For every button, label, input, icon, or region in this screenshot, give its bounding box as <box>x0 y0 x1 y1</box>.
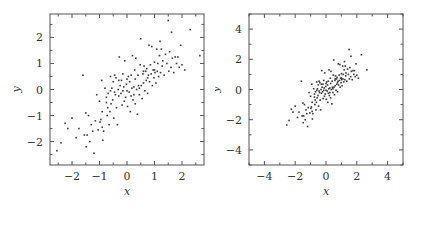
data-point <box>123 86 125 88</box>
data-point <box>354 70 356 72</box>
data-point <box>78 128 80 130</box>
data-point <box>169 51 171 53</box>
data-point <box>332 88 334 90</box>
data-point <box>123 100 125 102</box>
data-point <box>307 107 309 109</box>
x-tick-label: 2 <box>179 170 186 183</box>
data-point <box>88 115 90 117</box>
data-point <box>102 139 104 141</box>
data-point <box>342 78 344 80</box>
y-tick-label: 2 <box>36 31 43 44</box>
data-point <box>344 61 346 63</box>
data-point <box>315 109 317 111</box>
x-tick-label: 2 <box>353 170 360 183</box>
data-point <box>176 63 178 65</box>
data-point <box>115 94 117 96</box>
data-point <box>325 86 327 88</box>
data-point <box>311 111 313 113</box>
data-point <box>311 102 313 104</box>
data-point <box>310 95 312 97</box>
data-point <box>130 74 132 76</box>
y-tick-label: 1 <box>36 57 43 70</box>
data-point <box>111 87 113 89</box>
data-point <box>128 91 130 93</box>
data-point <box>305 109 307 111</box>
data-point <box>311 106 313 108</box>
data-point <box>327 84 329 86</box>
x-axis-label: x <box>323 185 330 198</box>
data-point <box>319 99 321 101</box>
data-point <box>99 121 101 123</box>
data-point <box>344 65 346 67</box>
data-point <box>338 63 340 65</box>
data-point <box>103 130 105 132</box>
data-point <box>318 80 320 82</box>
data-point <box>339 64 341 66</box>
data-point <box>148 74 150 76</box>
y-tick-label: −2 <box>27 136 43 149</box>
data-point <box>109 111 111 113</box>
data-point <box>114 91 116 93</box>
data-point <box>110 90 112 92</box>
y-tick-label: 0 <box>36 84 43 97</box>
data-point <box>306 113 308 115</box>
data-point <box>108 124 110 126</box>
data-point <box>332 86 334 88</box>
data-point <box>165 54 167 56</box>
y-axis-label: y <box>215 86 222 94</box>
data-point <box>335 75 337 77</box>
data-point <box>141 98 143 100</box>
data-point <box>161 65 163 67</box>
data-point <box>101 80 103 82</box>
data-point <box>159 55 161 57</box>
data-point <box>128 76 130 78</box>
data-point <box>92 130 94 132</box>
y-tick-label: −2 <box>226 114 242 127</box>
data-point <box>124 60 126 62</box>
data-point <box>154 72 156 74</box>
data-point <box>86 146 88 148</box>
data-point <box>361 54 363 56</box>
data-point <box>156 48 158 50</box>
data-point <box>331 80 333 82</box>
data-point <box>174 56 176 58</box>
data-point <box>316 97 318 99</box>
data-point <box>85 112 87 114</box>
data-point <box>104 87 106 89</box>
data-point <box>184 69 186 71</box>
data-point <box>350 55 352 57</box>
data-point <box>154 69 156 71</box>
data-point <box>353 74 355 76</box>
data-point <box>288 120 290 122</box>
data-point <box>180 44 182 46</box>
data-point <box>133 86 135 88</box>
data-point <box>132 99 134 101</box>
data-point <box>137 113 139 115</box>
data-point <box>328 92 330 94</box>
x-tick-label: −4 <box>256 170 272 183</box>
data-point <box>141 85 143 87</box>
data-point <box>316 89 318 91</box>
data-point <box>314 96 316 98</box>
data-point <box>143 65 145 67</box>
data-point <box>97 129 99 131</box>
data-point <box>337 80 339 82</box>
data-point <box>121 80 123 82</box>
data-point <box>159 41 161 43</box>
data-point <box>343 69 345 71</box>
data-point <box>342 65 344 67</box>
data-point <box>311 83 313 85</box>
data-point <box>152 85 154 87</box>
data-point <box>101 126 103 128</box>
data-point <box>56 150 58 152</box>
data-point <box>325 89 327 91</box>
data-point <box>330 83 332 85</box>
data-point <box>341 77 343 79</box>
data-point <box>333 86 335 88</box>
x-tick-label: 0 <box>124 170 131 183</box>
data-point <box>334 85 336 87</box>
data-point <box>348 74 350 76</box>
data-point <box>302 122 304 124</box>
data-point <box>152 69 154 71</box>
data-point <box>162 60 164 62</box>
